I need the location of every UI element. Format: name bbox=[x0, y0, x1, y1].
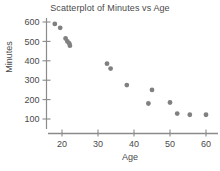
y-axis-tick-label: 500 bbox=[24, 37, 39, 47]
y-axis-tick-label: 600 bbox=[24, 17, 39, 27]
x-axis: 2030405060 bbox=[48, 130, 218, 149]
x-axis-tick-label: 30 bbox=[93, 139, 103, 149]
scatter-point bbox=[68, 43, 73, 48]
scatter-point bbox=[175, 111, 180, 116]
scatter-point bbox=[108, 66, 113, 71]
y-axis-tick-label: 300 bbox=[24, 75, 39, 85]
scatter-point bbox=[150, 88, 155, 93]
scatter-point bbox=[187, 112, 192, 117]
scatter-point bbox=[168, 100, 173, 105]
data-points bbox=[52, 22, 208, 118]
x-axis-tick-label: 20 bbox=[57, 139, 67, 149]
scatter-point bbox=[204, 112, 209, 117]
y-axis-tick-label: 200 bbox=[24, 95, 39, 105]
scatter-point bbox=[58, 25, 63, 30]
plot-area: 100200300400500600 2030405060 bbox=[0, 0, 220, 171]
scatter-point bbox=[146, 101, 151, 106]
y-axis-tick-label: 100 bbox=[24, 114, 39, 124]
scatter-point bbox=[124, 83, 129, 88]
scatter-point bbox=[52, 22, 57, 27]
scatter-point bbox=[105, 61, 110, 66]
y-axis: 100200300400500600 bbox=[24, 17, 50, 129]
x-axis-tick-label: 50 bbox=[165, 139, 175, 149]
scatterplot-figure: Scatterplot of Minutes vs Age Minutes 10… bbox=[0, 0, 220, 171]
x-axis-tick-label: 60 bbox=[201, 139, 211, 149]
x-axis-label: Age bbox=[46, 152, 214, 162]
x-axis-tick-label: 40 bbox=[129, 139, 139, 149]
y-axis-tick-label: 400 bbox=[24, 56, 39, 66]
